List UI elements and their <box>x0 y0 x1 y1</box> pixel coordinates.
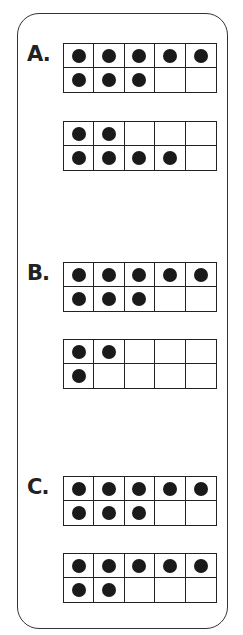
counter-dot-icon <box>194 482 208 496</box>
ten-frame <box>63 43 217 93</box>
ten-frame-cell <box>155 122 185 146</box>
problem-a-label: A. <box>27 44 50 65</box>
counter-dot-icon <box>102 151 116 165</box>
ten-frame <box>63 262 217 312</box>
card-frame <box>17 13 228 629</box>
ten-frame-cell <box>155 287 185 311</box>
ten-frame-cell <box>125 501 155 525</box>
ten-frame-cell <box>186 68 216 92</box>
counter-dot-icon <box>102 345 116 359</box>
ten-frame-cell <box>94 44 124 68</box>
counter-dot-icon <box>132 268 146 282</box>
counter-dot-icon <box>72 583 86 597</box>
ten-frame-cell <box>125 44 155 68</box>
ten-frame-cell <box>94 340 124 364</box>
counter-dot-icon <box>102 506 116 520</box>
ten-frame-cell <box>155 263 185 287</box>
ten-frame-cell <box>125 68 155 92</box>
counter-dot-icon <box>102 127 116 141</box>
ten-frame-cell <box>64 340 94 364</box>
counter-dot-icon <box>72 506 86 520</box>
ten-frame-cell <box>94 122 124 146</box>
ten-frame-cell <box>94 287 124 311</box>
ten-frame-cell <box>186 340 216 364</box>
ten-frame-cell <box>94 68 124 92</box>
ten-frame-cell <box>125 146 155 170</box>
ten-frame-cell <box>186 287 216 311</box>
ten-frame <box>63 121 217 171</box>
counter-dot-icon <box>102 73 116 87</box>
ten-frame-cell <box>186 146 216 170</box>
ten-frame-cell <box>186 122 216 146</box>
ten-frame-cell <box>186 501 216 525</box>
ten-frame-cell <box>94 578 124 602</box>
ten-frame-cell <box>125 477 155 501</box>
counter-dot-icon <box>132 292 146 306</box>
ten-frame-cell <box>186 554 216 578</box>
ten-frame-cell <box>64 68 94 92</box>
ten-frame-cell <box>125 578 155 602</box>
ten-frame-cell <box>155 477 185 501</box>
counter-dot-icon <box>102 559 116 573</box>
counter-dot-icon <box>132 151 146 165</box>
ten-frame-cell <box>64 146 94 170</box>
counter-dot-icon <box>102 49 116 63</box>
counter-dot-icon <box>102 583 116 597</box>
ten-frame-cell <box>186 578 216 602</box>
ten-frame-cell <box>64 44 94 68</box>
ten-frame-cell <box>155 578 185 602</box>
ten-frame-cell <box>155 340 185 364</box>
counter-dot-icon <box>163 559 177 573</box>
counter-dot-icon <box>72 559 86 573</box>
ten-frame-cell <box>155 554 185 578</box>
ten-frame-cell <box>94 146 124 170</box>
counter-dot-icon <box>72 268 86 282</box>
ten-frame <box>63 476 217 526</box>
counter-dot-icon <box>102 482 116 496</box>
ten-frame-cell <box>64 287 94 311</box>
counter-dot-icon <box>72 151 86 165</box>
problem-c-label: C. <box>27 477 48 498</box>
counter-dot-icon <box>72 49 86 63</box>
ten-frame-cell <box>186 44 216 68</box>
problem-b-label: B. <box>27 263 49 284</box>
ten-frame-cell <box>186 364 216 388</box>
ten-frame-cell <box>94 477 124 501</box>
ten-frame-cell <box>125 287 155 311</box>
ten-frame-cell <box>64 554 94 578</box>
counter-dot-icon <box>194 268 208 282</box>
counter-dot-icon <box>163 482 177 496</box>
ten-frame-cell <box>186 477 216 501</box>
counter-dot-icon <box>72 127 86 141</box>
ten-frame-cell <box>64 477 94 501</box>
counter-dot-icon <box>132 73 146 87</box>
ten-frame-cell <box>125 122 155 146</box>
ten-frame-cell <box>94 501 124 525</box>
counter-dot-icon <box>194 49 208 63</box>
counter-dot-icon <box>72 345 86 359</box>
counter-dot-icon <box>72 482 86 496</box>
ten-frame-cell <box>64 122 94 146</box>
ten-frame-cell <box>64 364 94 388</box>
counter-dot-icon <box>72 369 86 383</box>
counter-dot-icon <box>163 151 177 165</box>
ten-frame-cell <box>155 146 185 170</box>
ten-frame-cell <box>94 554 124 578</box>
ten-frame-cell <box>64 263 94 287</box>
ten-frame-cell <box>155 68 185 92</box>
counter-dot-icon <box>72 73 86 87</box>
ten-frame-cell <box>155 364 185 388</box>
counter-dot-icon <box>163 49 177 63</box>
counter-dot-icon <box>163 268 177 282</box>
counter-dot-icon <box>132 482 146 496</box>
ten-frame-cell <box>64 578 94 602</box>
ten-frame-cell <box>125 554 155 578</box>
ten-frame <box>63 339 217 389</box>
counter-dot-icon <box>102 268 116 282</box>
ten-frame-cell <box>125 340 155 364</box>
ten-frame <box>63 553 217 603</box>
ten-frame-cell <box>64 501 94 525</box>
ten-frame-cell <box>186 263 216 287</box>
counter-dot-icon <box>72 292 86 306</box>
counter-dot-icon <box>132 559 146 573</box>
